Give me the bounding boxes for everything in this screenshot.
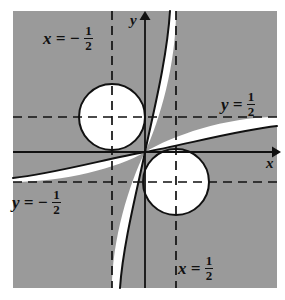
label-y-pos-half: y = 1 2 <box>221 90 255 119</box>
label-x-neg-half-numerator: 1 <box>84 24 93 39</box>
label-x-neg-half-fraction: 1 2 <box>84 24 93 53</box>
label-x-neg-half-sign: − <box>70 30 80 47</box>
label-y-neg-half-sign: − <box>38 194 48 211</box>
label-x-pos-half-eq: = <box>191 260 201 277</box>
x-axis-label: x <box>266 156 274 171</box>
label-x-neg-half-eq: = <box>56 30 66 47</box>
label-y-pos-half-numerator: 1 <box>247 90 256 105</box>
label-x-pos-half-numerator: 1 <box>205 254 214 269</box>
label-x-pos-half-denominator: 2 <box>205 269 214 283</box>
label-y-neg-half-numerator: 1 <box>52 188 61 203</box>
label-y-pos-half-eq: = <box>233 96 243 113</box>
label-y-neg-half-eq: = <box>24 194 34 211</box>
label-x-neg-half-denominator: 2 <box>84 39 93 53</box>
label-y-pos-half-denominator: 2 <box>247 105 256 119</box>
label-x-pos-half-fraction: 1 2 <box>205 254 214 283</box>
label-y-pos-half-fraction: 1 2 <box>247 90 256 119</box>
label-x-neg-half-var: x <box>43 30 52 47</box>
label-y-pos-half-var: y <box>221 96 229 113</box>
label-x-neg-half: x = − 1 2 <box>43 24 93 53</box>
math-figure: x = − 1 2 x = 1 2 y = 1 2 y = − 1 2 y <box>0 0 285 300</box>
label-y-neg-half-fraction: 1 2 <box>52 188 61 217</box>
label-y-neg-half-var: y <box>12 194 20 211</box>
label-y-neg-half: y = − 1 2 <box>12 188 61 217</box>
label-x-pos-half-var: x <box>178 260 187 277</box>
label-y-neg-half-denominator: 2 <box>52 203 61 217</box>
label-x-pos-half: x = 1 2 <box>178 254 213 283</box>
y-axis-label: y <box>130 13 137 28</box>
